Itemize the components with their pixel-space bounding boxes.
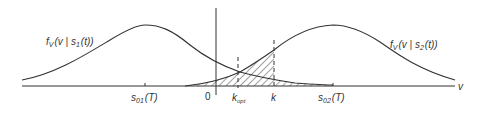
curve-s1 — [22, 25, 333, 85]
kopt-label: kopt — [232, 92, 246, 104]
s02-label: s02(T) — [318, 92, 345, 104]
axis-v-label: v — [458, 81, 464, 92]
curve-s1-label: fV(v | s1(t)) — [46, 36, 94, 48]
likelihood-diagram: fV(v | s1(t)) fV(v | s2(t)) v 0 s01(T) s… — [0, 0, 478, 113]
origin-label: 0 — [205, 91, 211, 102]
curve-s2 — [185, 25, 455, 86]
s01-label: s01(T) — [131, 92, 158, 104]
k-label: k — [271, 92, 277, 103]
curve-s2-label: fV(v | s2(t)) — [390, 39, 438, 51]
